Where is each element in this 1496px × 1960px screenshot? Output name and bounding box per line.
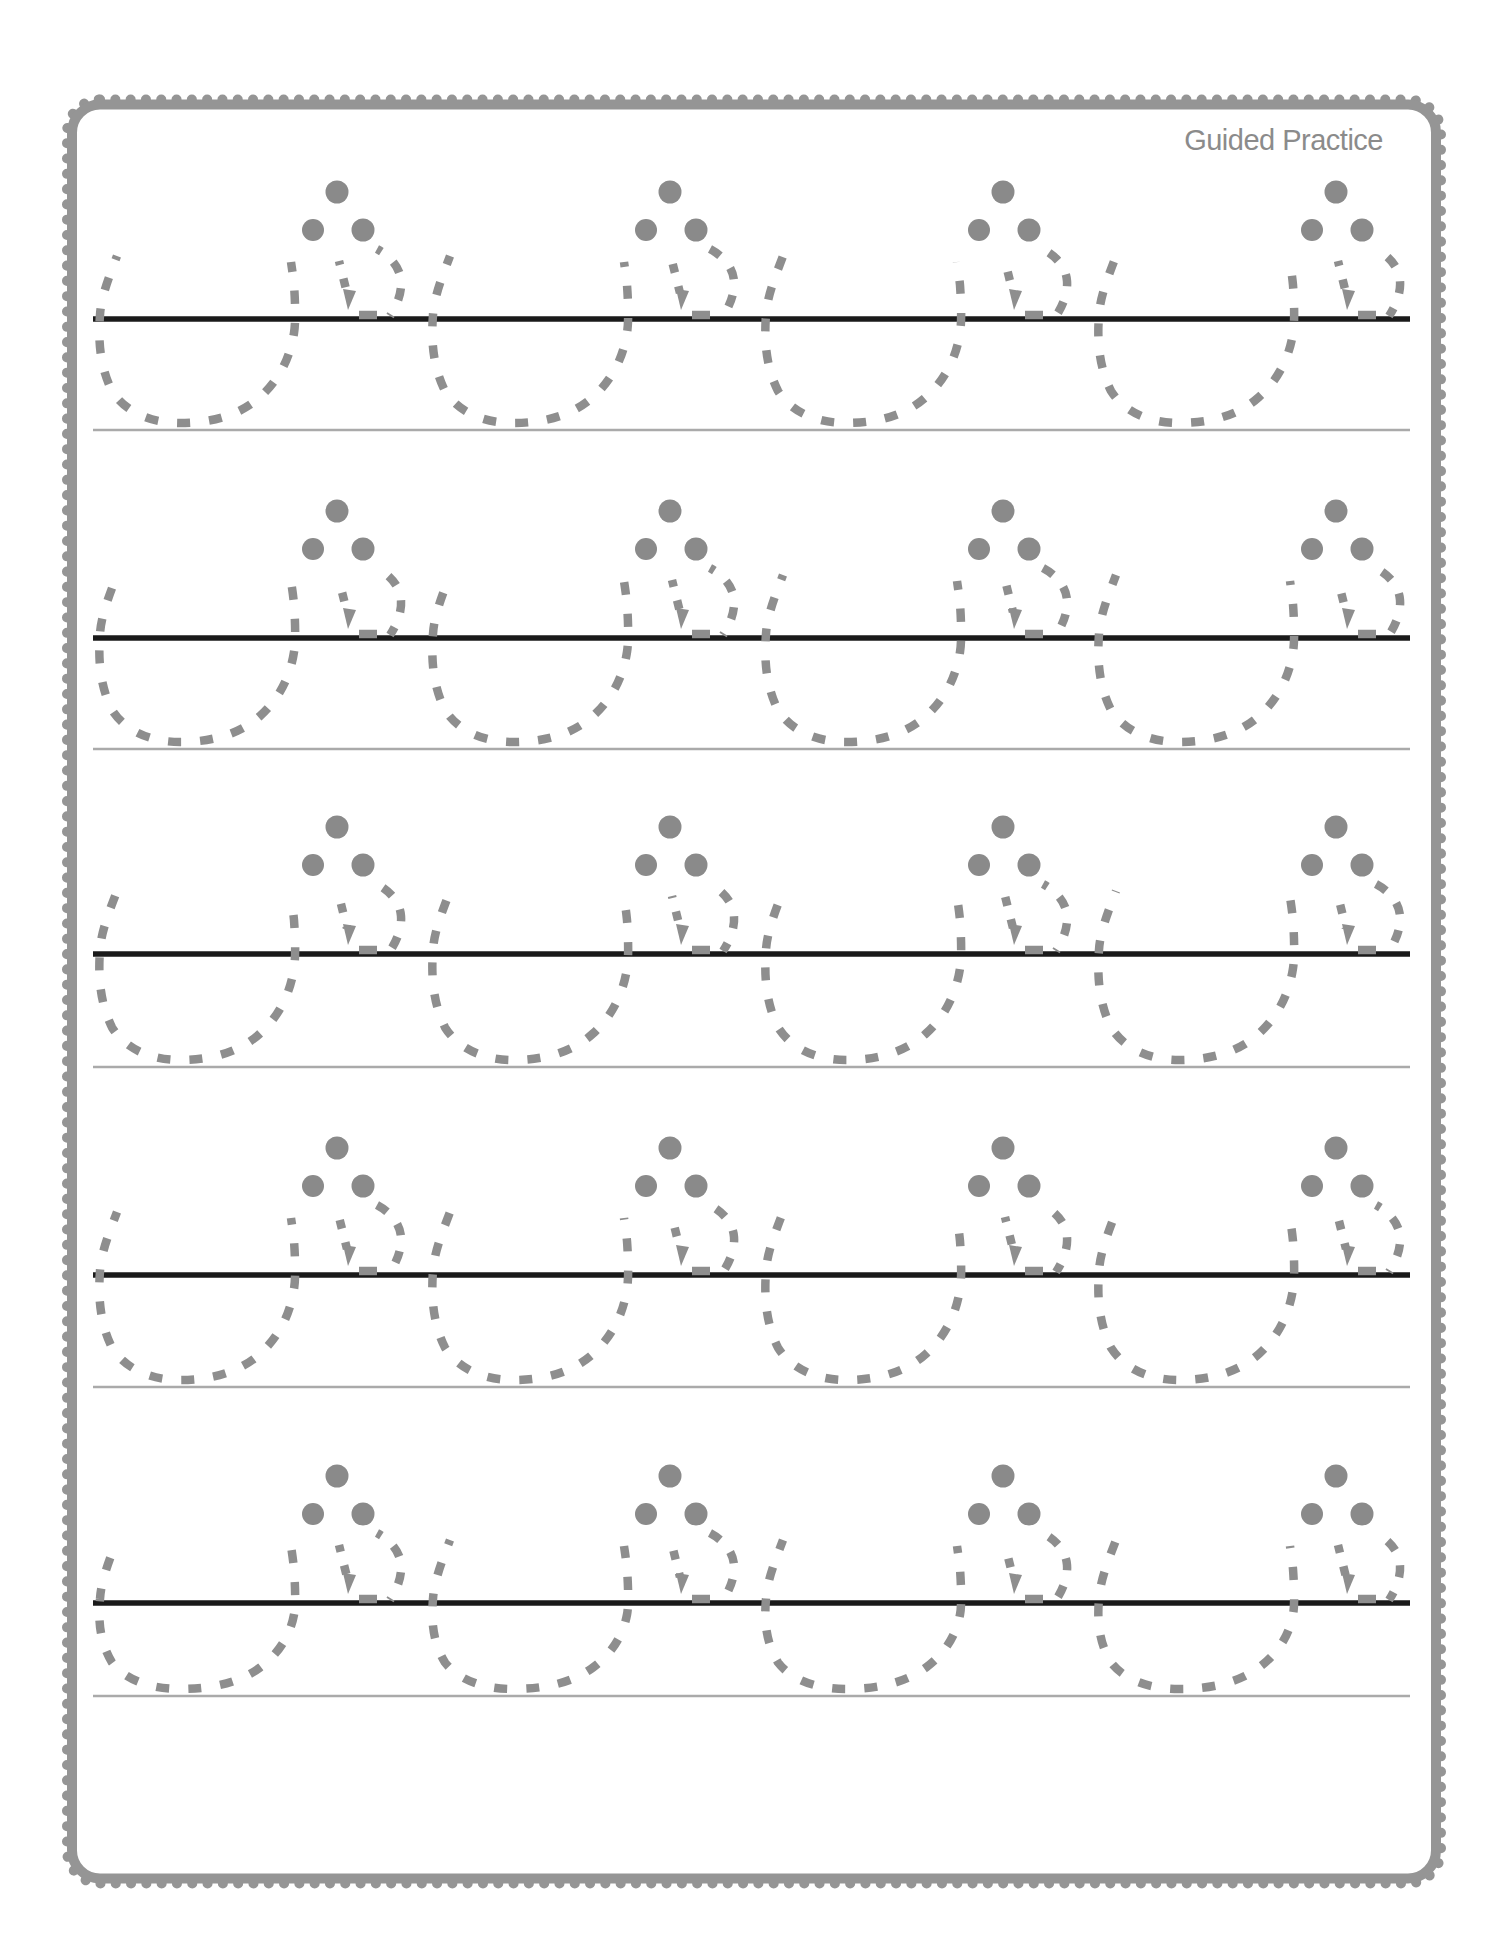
trace-u-stroke xyxy=(765,575,961,742)
trace-unit xyxy=(1098,181,1400,424)
trace-u-stroke xyxy=(432,256,628,423)
trace-retrace-stroke xyxy=(1338,580,1346,612)
start-dot xyxy=(659,1137,682,1160)
border-band xyxy=(72,105,1436,1879)
trace-unit xyxy=(99,181,401,424)
trace-unit xyxy=(765,500,1067,743)
trace-arc-stroke xyxy=(1043,884,1067,951)
trace-unit xyxy=(1098,1465,1400,1690)
direction-arrow-icon xyxy=(1009,1573,1022,1594)
start-dot xyxy=(1351,854,1374,877)
trace-unit xyxy=(1098,500,1400,743)
trace-arc-stroke xyxy=(1043,568,1067,635)
direction-arrow-icon xyxy=(676,1245,689,1266)
trace-unit xyxy=(765,181,1067,424)
direction-arrow-icon xyxy=(676,608,689,629)
trace-unit xyxy=(765,1465,1067,1690)
trace-unit xyxy=(765,816,1067,1061)
start-dot xyxy=(352,1175,375,1198)
trace-arc-stroke xyxy=(710,1205,734,1272)
trace-u-stroke xyxy=(99,256,295,423)
start-dot xyxy=(992,816,1015,839)
worksheet-page: Guided Practice xyxy=(0,0,1496,1960)
trace-arc-stroke xyxy=(1376,568,1400,635)
trace-arc-stroke xyxy=(1376,249,1400,316)
trace-u-stroke xyxy=(432,575,628,742)
trace-unit xyxy=(1098,816,1400,1061)
start-dot xyxy=(968,538,990,560)
direction-arrow-icon xyxy=(1342,1245,1355,1266)
direction-arrow-icon xyxy=(676,1573,689,1594)
start-dot xyxy=(1018,538,1041,561)
start-dot xyxy=(352,538,375,561)
start-dot xyxy=(1301,1503,1323,1525)
trace-unit xyxy=(432,181,734,424)
start-dot xyxy=(1325,1137,1348,1160)
start-dot xyxy=(1325,816,1348,839)
trace-retrace-stroke xyxy=(1338,1545,1346,1577)
start-dot xyxy=(685,1175,708,1198)
trace-arc-stroke xyxy=(1043,1205,1067,1272)
start-dot xyxy=(968,1503,990,1525)
practice-row-2 xyxy=(93,500,1410,750)
trace-arc-stroke xyxy=(377,1205,401,1272)
start-dot xyxy=(659,500,682,523)
trace-retrace-stroke xyxy=(1005,1545,1013,1577)
start-dot xyxy=(1018,1503,1041,1526)
start-dot xyxy=(326,500,349,523)
start-dot xyxy=(1351,538,1374,561)
start-dot xyxy=(1301,1175,1323,1197)
trace-retrace-stroke xyxy=(339,896,347,928)
start-dot xyxy=(992,1465,1015,1488)
trace-unit xyxy=(765,1137,1067,1381)
start-dot xyxy=(1018,1175,1041,1198)
trace-u-stroke xyxy=(1098,1212,1294,1380)
trace-retrace-stroke xyxy=(339,1545,347,1577)
trace-u-stroke xyxy=(765,1540,961,1689)
practice-row-1 xyxy=(93,181,1410,431)
start-dot xyxy=(352,1503,375,1526)
start-dot xyxy=(302,1503,324,1525)
trace-retrace-stroke xyxy=(1005,580,1013,612)
trace-u-stroke xyxy=(1098,256,1294,423)
start-dot xyxy=(659,1465,682,1488)
start-dot xyxy=(326,816,349,839)
trace-retrace-stroke xyxy=(1338,1217,1346,1249)
trace-u-stroke xyxy=(765,256,961,423)
direction-arrow-icon xyxy=(1342,924,1355,945)
start-dot xyxy=(1351,1175,1374,1198)
direction-arrow-icon xyxy=(1342,608,1355,629)
direction-arrow-icon xyxy=(1009,924,1022,945)
trace-unit xyxy=(432,1137,734,1381)
trace-unit xyxy=(99,500,401,743)
trace-u-stroke xyxy=(432,1212,628,1380)
trace-retrace-stroke xyxy=(339,580,347,612)
trace-retrace-stroke xyxy=(672,580,680,612)
start-dot xyxy=(1301,219,1323,241)
trace-arc-stroke xyxy=(1043,249,1067,316)
direction-arrow-icon xyxy=(343,289,356,310)
trace-unit xyxy=(1098,1137,1400,1381)
start-dot xyxy=(1351,219,1374,242)
practice-row-3 xyxy=(93,816,1410,1068)
start-dot xyxy=(968,1175,990,1197)
trace-unit xyxy=(99,816,401,1061)
start-dot xyxy=(635,1503,657,1525)
start-dot xyxy=(326,181,349,204)
direction-arrow-icon xyxy=(343,1245,356,1266)
trace-retrace-stroke xyxy=(339,1217,347,1249)
trace-unit xyxy=(432,816,734,1061)
start-dot xyxy=(352,854,375,877)
trace-arc-stroke xyxy=(377,1533,401,1600)
start-dot xyxy=(302,854,324,876)
direction-arrow-icon xyxy=(676,289,689,310)
start-dot xyxy=(685,854,708,877)
start-dot xyxy=(1018,219,1041,242)
trace-retrace-stroke xyxy=(1338,896,1346,928)
worksheet-border xyxy=(67,100,1441,1884)
trace-unit xyxy=(432,500,734,743)
trace-u-stroke xyxy=(765,891,961,1060)
start-dot xyxy=(968,219,990,241)
trace-unit xyxy=(99,1465,401,1690)
worksheet-canvas xyxy=(0,0,1496,1960)
